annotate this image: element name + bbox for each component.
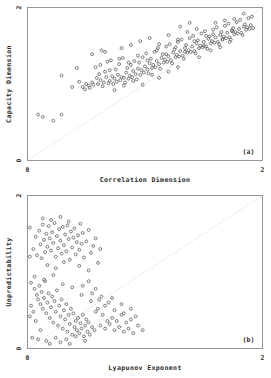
data-point: [75, 241, 78, 244]
data-point: [101, 85, 104, 88]
data-point: [101, 313, 104, 316]
data-point: [117, 73, 120, 76]
figure-container: 0202Correlation DimensionCapacity Dimens…: [0, 0, 271, 378]
data-point: [67, 238, 70, 241]
data-point: [62, 309, 65, 312]
data-point: [149, 57, 152, 60]
data-point: [162, 61, 165, 64]
data-point: [78, 248, 81, 251]
data-point: [68, 258, 71, 261]
data-point: [118, 326, 121, 329]
data-point: [137, 67, 140, 70]
data-point: [214, 21, 217, 24]
data-point: [71, 333, 74, 336]
data-point: [55, 235, 58, 238]
scatter-panel-a: 0202Correlation DimensionCapacity Dimens…: [0, 0, 271, 190]
data-point: [129, 63, 132, 66]
identity-reference-line-b: [28, 196, 263, 349]
data-point: [104, 327, 107, 330]
data-point: [87, 280, 90, 283]
data-point: [131, 76, 134, 79]
data-point: [106, 320, 109, 323]
data-point: [92, 245, 95, 248]
data-point: [126, 66, 129, 69]
y-tick-label-max-a: 2: [15, 5, 23, 9]
data-point: [233, 18, 236, 21]
data-point: [158, 63, 161, 66]
panel-tag-a: (a): [243, 148, 255, 156]
data-point: [73, 326, 76, 329]
data-point: [52, 274, 55, 277]
x-tick-label-max-b: 2: [261, 354, 265, 362]
data-point: [118, 63, 121, 66]
data-point: [86, 330, 89, 333]
data-point: [151, 73, 154, 76]
data-point: [108, 323, 111, 326]
data-point: [119, 79, 122, 82]
x-axis-title-b: Lyapunov Exponent: [108, 364, 181, 372]
data-point: [182, 57, 185, 60]
data-point: [220, 31, 223, 34]
data-point: [144, 65, 147, 68]
data-point: [189, 50, 192, 53]
data-point: [99, 79, 102, 82]
data-point: [122, 312, 125, 315]
x-tick-label-min-b: 0: [26, 354, 30, 362]
y-tick-label-min-b: 0: [15, 346, 23, 350]
data-point: [179, 50, 182, 53]
data-point: [140, 69, 143, 72]
data-point: [46, 301, 49, 304]
data-point: [51, 295, 54, 298]
data-point: [248, 27, 251, 30]
data-point: [90, 251, 93, 254]
data-point: [91, 53, 94, 56]
data-point: [151, 66, 154, 69]
data-point: [93, 329, 96, 332]
data-point: [87, 269, 90, 272]
data-point: [155, 60, 158, 63]
data-point: [60, 298, 63, 301]
data-point: [121, 57, 124, 60]
data-point: [66, 330, 69, 333]
data-point: [99, 324, 102, 327]
data-point: [68, 342, 71, 345]
data-point: [98, 73, 101, 76]
data-point: [85, 240, 88, 243]
data-point: [147, 72, 150, 75]
data-point: [122, 330, 125, 333]
plot-area-a: 0202Correlation DimensionCapacity Dimens…: [0, 0, 271, 190]
data-point: [111, 316, 114, 319]
data-point: [188, 21, 191, 24]
data-point: [100, 295, 103, 298]
data-point: [77, 234, 80, 237]
data-point: [133, 60, 136, 63]
data-point: [100, 49, 103, 52]
data-point: [219, 46, 222, 49]
data-point: [179, 25, 182, 28]
data-point: [134, 73, 137, 76]
data-point: [120, 47, 123, 50]
data-point: [79, 322, 82, 325]
data-point: [97, 261, 100, 264]
data-point: [84, 88, 87, 91]
y-axis-title-b: Unpredictability: [5, 237, 13, 306]
data-point: [236, 32, 239, 35]
data-point: [99, 63, 102, 66]
data-point: [64, 233, 67, 236]
data-point: [60, 252, 63, 255]
data-point: [34, 320, 37, 323]
data-point: [127, 327, 130, 330]
panel-tag-b: (b): [243, 336, 255, 344]
data-point: [132, 332, 135, 335]
data-point: [80, 294, 83, 297]
data-point: [71, 86, 74, 89]
data-point: [78, 332, 81, 335]
data-point: [33, 275, 36, 278]
data-point: [238, 27, 241, 30]
data-point: [39, 243, 42, 246]
data-point: [72, 312, 75, 315]
data-point: [107, 301, 110, 304]
data-point: [61, 283, 64, 286]
data-point: [167, 34, 170, 37]
data-point: [91, 292, 94, 295]
